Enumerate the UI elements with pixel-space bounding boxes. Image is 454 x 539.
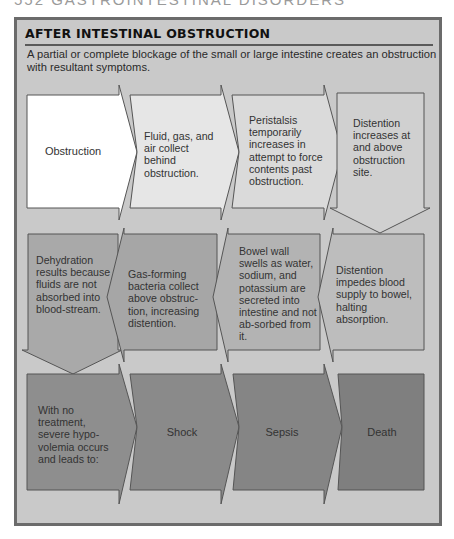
step-obstruction: Obstruction xyxy=(27,95,119,208)
step-death: Death xyxy=(340,374,424,490)
step-fluid-gas: Fluid, gas, and air collect behind obstr… xyxy=(144,130,222,179)
step-peristalsis: Peristalsis temporarily increases in att… xyxy=(249,114,327,187)
step-shock: Shock xyxy=(140,374,224,490)
step-gas-forming: Gas-forming bacteria collect above obstr… xyxy=(128,268,214,329)
step-sepsis: Sepsis xyxy=(240,374,324,490)
step-distention-increases: Distention increases at and above obstru… xyxy=(353,117,419,178)
step-dehydration: Dehydration results because fluids are n… xyxy=(36,254,112,315)
step-bowel-wall: Bowel wall swells as water, sodium, and … xyxy=(239,245,317,343)
step-distention-impedes: Distention impedes blood supply to bowel… xyxy=(336,264,420,325)
step-no-treatment: With no treatment, severe hypo-volemia o… xyxy=(38,404,118,465)
